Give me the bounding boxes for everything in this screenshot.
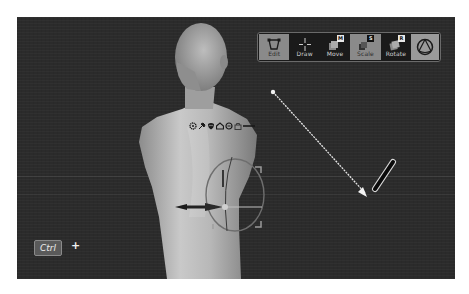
3d-viewport[interactable]: Edit Draw M Move S Scale R [17,17,455,279]
tool-label: Draw [297,50,313,57]
reset-icon[interactable] [225,115,233,123]
plus-sign: + [71,239,80,252]
ctrl-key-hint: Ctrl [34,240,62,256]
tool-move[interactable]: M Move [320,34,350,60]
house-icon[interactable] [216,115,224,123]
shortcut-badge: M [337,35,344,42]
shortcut-badge: R [398,35,405,42]
lock-icon[interactable] [234,115,242,123]
tool-edit[interactable]: Edit [259,34,289,60]
scale-icon: S [358,36,372,49]
tool-sphere-gizmo[interactable] [411,34,439,60]
tool-rotate[interactable]: R Rotate [381,34,411,60]
tool-label: Move [327,50,344,57]
tool-scale[interactable]: S Scale [350,34,380,60]
crosshair-icon [298,36,312,49]
link-icon[interactable] [243,115,255,123]
move-icon: M [328,36,342,49]
tool-label: Scale [357,50,374,57]
pin-icon[interactable] [198,115,206,123]
tool-label: Rotate [386,50,406,57]
tool-label: Edit [268,50,280,57]
gizmo-icon-row [189,115,255,123]
gear-icon[interactable] [189,115,197,123]
mask-icon[interactable] [207,115,215,123]
shortcut-badge: S [367,35,374,42]
rotate-icon: R [389,36,403,49]
sphere-gizmo-icon [416,38,434,56]
edit-frame-icon [267,36,281,49]
tool-draw[interactable]: Draw [289,34,319,60]
transform-toolbar: Edit Draw M Move S Scale R [257,32,441,62]
